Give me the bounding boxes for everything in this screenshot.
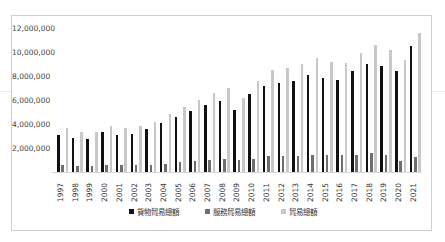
bar-services [105,165,108,172]
plot-area [0,0,445,172]
bar-services [135,165,138,172]
bar-goods [131,134,134,172]
total-swatch-icon [281,209,286,214]
bar-goods [278,83,281,172]
bar-services [179,162,182,172]
bar-services [341,155,344,172]
bar-goods [233,110,236,172]
bar-services [120,165,123,172]
bar-services [326,155,329,172]
bar-total [198,100,201,172]
bar-goods [395,71,398,172]
bar-services [399,161,402,172]
x-tick-label: 2021 [409,183,418,202]
bar-goods [57,135,60,172]
bar-goods [292,81,295,172]
bar-services [238,160,241,172]
x-tick-label: 2006 [188,183,197,202]
bar-services [61,165,64,172]
x-tick-label: 2019 [379,183,388,202]
bar-total [316,58,319,172]
bar-total [301,64,304,172]
legend-label-goods: 貨物貿易總額 [137,206,179,217]
bar-goods [336,80,339,172]
x-tick-label: 2002 [130,183,139,202]
bar-total [213,93,216,172]
y-tick-label: 12,000,000 [12,24,64,33]
bar-goods [380,66,383,172]
bar-services [297,156,300,172]
bar-services [414,157,417,172]
x-tick-label: 2017 [350,183,359,202]
x-tick-label: 2014 [306,183,315,202]
bar-goods [86,139,89,172]
x-tick-label: 2001 [115,183,124,202]
bar-goods [322,78,325,172]
bar-services [223,159,226,172]
bar-total [257,81,260,172]
x-tick-label: 2010 [247,183,256,202]
x-tick-label: 1997 [56,183,65,202]
x-tick-label: 1999 [85,183,94,202]
bar-goods [351,71,354,172]
x-tick-label: 2016 [335,183,344,202]
bar-goods [204,105,207,172]
y-tick-label: 10,000,000 [12,48,64,57]
x-tick-label: 2009 [232,183,241,202]
bar-total [389,50,392,172]
legend-label-services: 服務貿易總額 [213,206,255,217]
legend: 貨物貿易總額 服務貿易總額 貿易總額 [0,206,445,217]
bar-goods [307,75,310,172]
bar-goods [175,117,178,172]
legend-label-total: 貿易總額 [289,206,317,217]
x-tick-label: 2003 [144,183,153,202]
bar-total [95,132,98,172]
bar-total [124,128,127,172]
bar-services [252,159,255,172]
bar-goods [101,132,104,172]
bar-services [282,156,285,172]
bar-goods [189,111,192,172]
bar-services [150,165,153,172]
bar-total [183,107,186,172]
x-tick-label: 2013 [291,183,300,202]
x-tick-label: 2015 [321,183,330,202]
bar-total [374,45,377,172]
bar-total [110,126,113,172]
y-tick-label: 2,000,000 [12,144,64,153]
x-tick-label: 2007 [203,183,212,202]
bar-total [139,126,142,172]
bar-total [80,132,83,172]
y-tick-label: 4,000,000 [12,120,64,129]
bar-total [360,53,363,172]
bar-total [345,63,348,172]
bar-goods [263,86,266,172]
bar-goods [160,123,163,172]
y-tick-label: 6,000,000 [12,96,64,105]
services-swatch-icon [205,209,210,214]
bar-goods [219,101,222,172]
bar-total [271,70,274,172]
bar-services [311,155,314,172]
legend-item-services: 服務貿易總額 [205,206,255,217]
bar-goods [248,94,251,172]
bar-total [169,114,172,172]
goods-swatch-icon [129,209,134,214]
bar-goods [145,129,148,172]
x-tick-label: 1998 [71,183,80,202]
x-tick-label: 2008 [218,183,227,202]
bar-services [164,164,167,172]
x-tick-label: 2020 [394,183,403,202]
bar-total [418,33,421,172]
bar-services [267,156,270,172]
x-axis-line [52,172,422,173]
bar-services [370,153,373,172]
y-tick-label: 8,000,000 [12,72,64,81]
bar-total [286,68,289,172]
bar-total [404,60,407,172]
x-tick-label: 2011 [262,183,271,202]
legend-item-goods: 貨物貿易總額 [129,206,179,217]
bar-total [330,62,333,172]
x-tick-label: 2005 [174,183,183,202]
bar-goods [366,64,369,172]
